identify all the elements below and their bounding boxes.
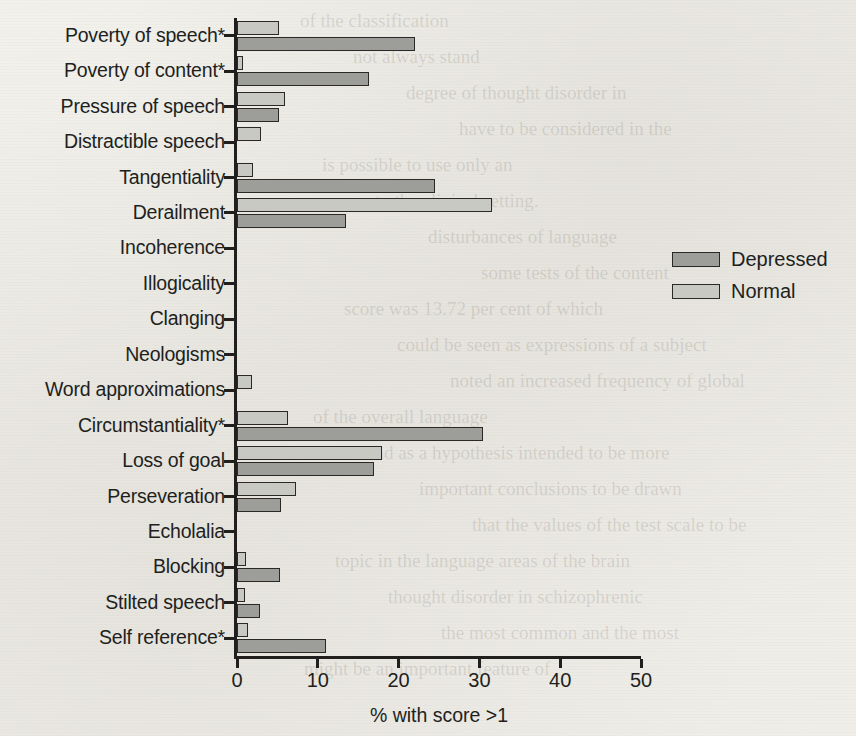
y-axis-tick <box>224 211 235 214</box>
bar-depressed <box>237 37 415 51</box>
y-axis-tick <box>224 176 235 179</box>
bar-normal <box>237 623 248 637</box>
bar-depressed <box>237 214 346 228</box>
x-axis-tick <box>397 659 400 668</box>
category-label: Clanging <box>150 309 225 329</box>
bar-normal <box>237 127 261 141</box>
y-axis-tick <box>224 389 235 392</box>
category-label: Pressure of speech <box>61 97 225 117</box>
category-label: Self reference* <box>99 628 225 648</box>
y-axis-tick <box>224 247 235 250</box>
bar-depressed <box>237 639 326 653</box>
bar-depressed <box>237 179 435 193</box>
bar-depressed <box>237 568 280 582</box>
category-label: Blocking <box>153 557 225 577</box>
bar-depressed <box>237 498 281 512</box>
x-axis-tick-label: 0 <box>231 670 242 690</box>
y-axis-tick <box>224 530 235 533</box>
bar-normal <box>237 56 243 70</box>
category-label: Tangentiality <box>119 168 225 188</box>
category-label: Perseveration <box>107 487 225 507</box>
x-axis-tick <box>236 659 239 668</box>
bar-normal <box>237 446 382 460</box>
x-axis-tick-label: 50 <box>630 670 652 690</box>
x-axis-tick-label: 30 <box>468 670 490 690</box>
x-axis-tick <box>478 659 481 668</box>
category-label: Word approximations <box>45 380 225 400</box>
legend-label: Depressed <box>731 249 828 269</box>
category-axis-labels: Poverty of speech*Poverty of content*Pre… <box>0 0 225 736</box>
category-label: Distractible speech <box>64 132 225 152</box>
category-label: Echolalia <box>148 522 225 542</box>
y-axis-tick <box>224 566 235 569</box>
bar-depressed <box>237 604 260 618</box>
bar-normal <box>237 198 492 212</box>
y-axis-tick <box>224 353 235 356</box>
category-label: Circumstantiality* <box>78 416 225 436</box>
bar-normal <box>237 411 288 425</box>
y-axis-tick <box>224 318 235 321</box>
y-axis-tick <box>224 495 235 498</box>
legend-swatch-normal <box>672 284 720 299</box>
x-axis-tick <box>316 659 319 668</box>
bar-normal <box>237 163 253 177</box>
bar-normal <box>237 92 285 106</box>
category-label: Poverty of content* <box>64 61 225 81</box>
bar-depressed <box>237 427 483 441</box>
category-label: Loss of goal <box>122 451 225 471</box>
y-axis-tick <box>224 637 235 640</box>
y-axis-tick <box>224 460 235 463</box>
y-axis-tick <box>224 424 235 427</box>
bar-normal <box>237 588 245 602</box>
category-label: Neologisms <box>125 345 225 365</box>
legend-item: Depressed <box>672 243 852 275</box>
x-axis-line <box>234 656 641 659</box>
bar-depressed <box>237 108 279 122</box>
x-axis-tick <box>640 659 643 668</box>
y-axis-tick <box>224 34 235 37</box>
x-axis-tick <box>559 659 562 668</box>
bar-normal <box>237 482 296 496</box>
legend-swatch-depressed <box>672 252 720 267</box>
category-label: Incoherence <box>120 238 225 258</box>
category-label: Stilted speech <box>105 593 225 613</box>
y-axis-tick <box>224 141 235 144</box>
x-axis-title: % with score >1 <box>237 706 641 726</box>
x-axis-tick-label: 20 <box>387 670 409 690</box>
bar-normal <box>237 552 246 566</box>
x-axis-tick-label: 10 <box>307 670 329 690</box>
category-label: Poverty of speech* <box>65 26 225 46</box>
bar-depressed <box>237 462 374 476</box>
x-axis-tick-label: 40 <box>549 670 571 690</box>
y-axis-tick <box>224 282 235 285</box>
bar-normal <box>237 21 279 35</box>
category-label: Illogicality <box>143 274 225 294</box>
bar-depressed <box>237 72 369 86</box>
category-label: Derailment <box>133 203 225 223</box>
bar-chart-figure: Poverty of speech*Poverty of content*Pre… <box>0 0 856 736</box>
plot-area: 01020304050 % with score >1 <box>237 18 641 656</box>
chart-legend: DepressedNormal <box>672 243 852 307</box>
y-axis-tick <box>224 601 235 604</box>
bar-normal <box>237 375 252 389</box>
y-axis-tick <box>224 70 235 73</box>
y-axis-tick <box>224 105 235 108</box>
legend-label: Normal <box>731 281 795 301</box>
legend-item: Normal <box>672 275 852 307</box>
